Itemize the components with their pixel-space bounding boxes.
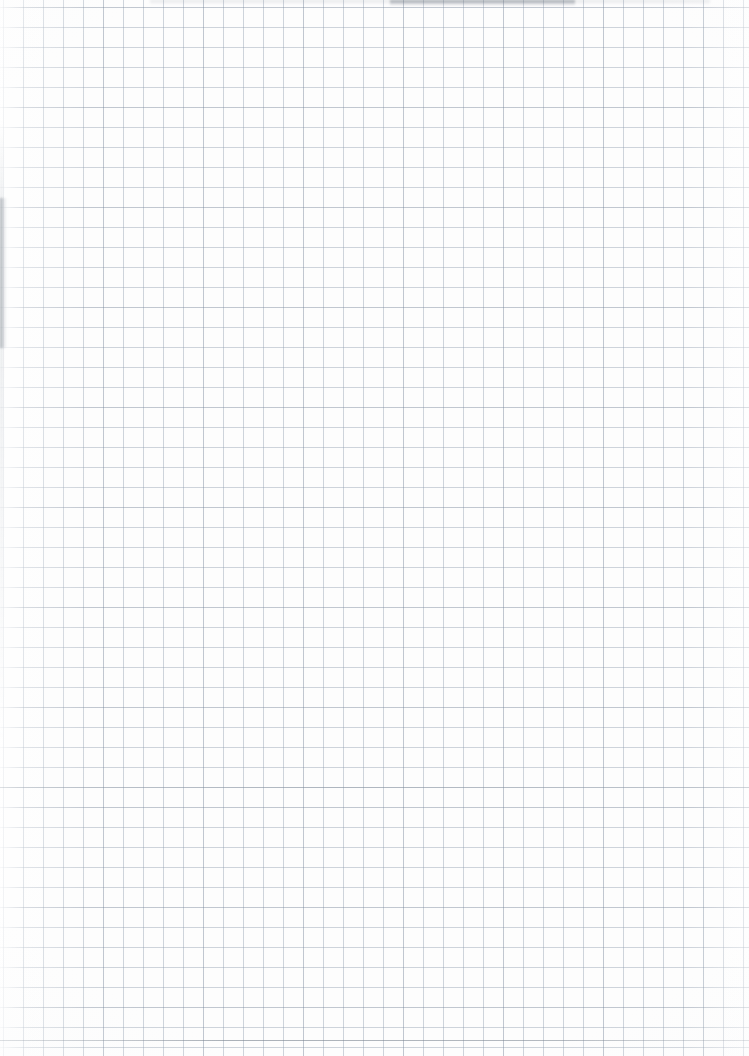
scanned-graph-paper-sheet — [0, 0, 749, 1056]
page-content-area — [0, 0, 749, 1056]
